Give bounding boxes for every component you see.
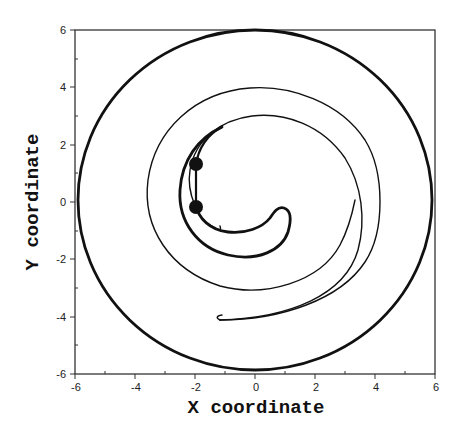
spiral-tail-tip <box>217 315 222 320</box>
x-tick-label: 0 <box>253 381 259 393</box>
x-tick-label: -2 <box>191 381 201 393</box>
x-axis-title: X coordinate <box>188 397 325 419</box>
x-tick-label: 2 <box>313 381 319 393</box>
y-tick-label: 0 <box>60 196 66 208</box>
x-tick-labels: -6 -4 -2 0 2 4 6 <box>71 381 439 393</box>
outer-boundary-circle <box>78 30 432 370</box>
marker-dot <box>189 200 203 214</box>
y-tick-label: 6 <box>60 24 66 36</box>
marker-dot <box>189 157 203 171</box>
x-tick-label: -6 <box>71 381 81 393</box>
x-axis <box>75 371 435 379</box>
plot-curves <box>78 30 432 370</box>
chart-figure: 6 4 2 0 -2 -4 -6 -6 -4 -2 0 2 4 6 X coor… <box>0 0 459 438</box>
spiral-arm-outer <box>147 88 380 320</box>
y-axis-title: Y coordinate <box>22 134 44 271</box>
y-tick-label: -2 <box>56 253 66 265</box>
x-tick-label: -4 <box>131 381 141 393</box>
y-tick-label: 2 <box>60 139 66 151</box>
y-tick-label: -4 <box>56 311 66 323</box>
x-tick-label: 4 <box>373 381 379 393</box>
y-tick-label: -6 <box>56 368 66 380</box>
x-tick-label: 6 <box>433 381 439 393</box>
y-tick-labels: 6 4 2 0 -2 -4 -6 <box>56 24 66 380</box>
y-tick-label: 4 <box>60 81 66 93</box>
